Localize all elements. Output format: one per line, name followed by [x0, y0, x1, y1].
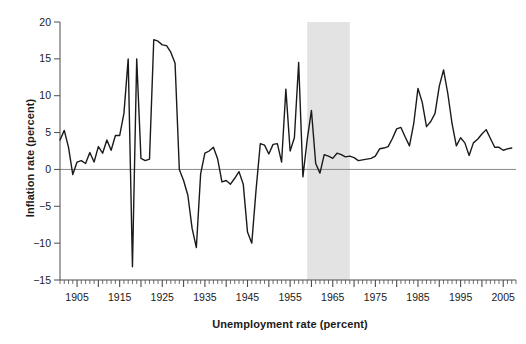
chart-plot-area: 20151050−5−10−15 19051915192519351945195…: [0, 0, 526, 344]
x-tick-label: 1995: [449, 291, 473, 303]
y-tick-group: 20151050−5−10−15: [33, 16, 60, 286]
x-tick-label: 1975: [364, 291, 388, 303]
x-tick-label: 1915: [108, 291, 132, 303]
shaded-band: [307, 22, 350, 280]
inflation-unemployment-chart: 20151050−5−10−15 19051915192519351945195…: [0, 0, 526, 344]
x-tick-label: 1965: [321, 291, 345, 303]
y-tick-label: 20: [39, 16, 51, 28]
x-axis-title: Unemployment rate (percent): [60, 318, 520, 330]
x-tick-label: 1925: [151, 291, 175, 303]
y-tick-label: −5: [39, 200, 51, 212]
y-tick-label: 10: [39, 89, 51, 101]
shaded-band-group: [307, 22, 350, 280]
x-tick-label: 1905: [65, 291, 89, 303]
y-tick-label: 0: [45, 163, 51, 175]
y-tick-label: 5: [45, 126, 51, 138]
x-tick-label: 1955: [278, 291, 302, 303]
y-tick-label: 15: [39, 52, 51, 64]
x-tick-label: 1985: [406, 291, 430, 303]
inflation-series-line: [60, 40, 512, 267]
y-axis-title: Inflation rate (percent): [24, 58, 36, 258]
x-tick-label: 2005: [492, 291, 516, 303]
y-tick-label: −15: [33, 274, 51, 286]
x-tick-label: 1945: [236, 291, 260, 303]
x-tick-label: 1935: [193, 291, 217, 303]
x-tick-group: 1905191519251935194519551965197519851995…: [60, 280, 516, 303]
